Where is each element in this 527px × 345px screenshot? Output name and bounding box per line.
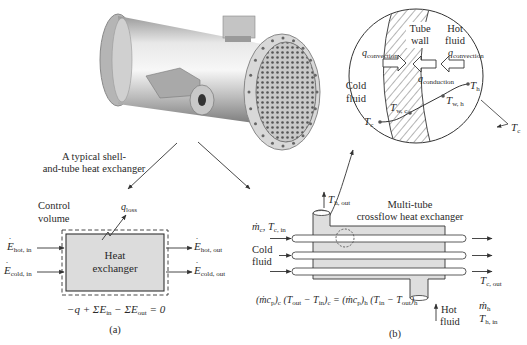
hot-fluid-label-line2: fluid — [445, 35, 466, 46]
cold-fluid-label-line2: fluid — [252, 256, 273, 267]
flange-bolt — [309, 59, 312, 62]
flange-bolt — [249, 74, 252, 77]
flange-bolt — [271, 142, 274, 145]
flange-bolt — [301, 134, 304, 137]
heat-exchanger-figure: A typical shell- and-tube heat exchanger… — [0, 0, 527, 345]
box-label-line1: Heat — [105, 249, 126, 261]
flange-bolt — [262, 134, 265, 137]
svg-text:·: · — [196, 257, 199, 267]
hot-fluid-label-line1: Hot — [441, 304, 457, 315]
Tc-out-label: Tc, out — [480, 274, 502, 288]
mh-label: ṁh — [479, 299, 491, 313]
panel-b-title-line1: Multi-tube — [388, 199, 433, 210]
panel-b-title-line2: crossflow heat exchanger — [357, 211, 464, 222]
flange-bolt — [248, 91, 251, 94]
shell-and-tube-photo — [100, 14, 320, 150]
flange-bolt — [254, 122, 257, 125]
panel-b-label: (b) — [389, 328, 402, 340]
photo-caption-line2: and-tube heat exchanger — [43, 163, 146, 174]
flange-bolt — [262, 47, 265, 50]
flange-bolt — [309, 122, 312, 125]
hot-fluid-label-line1: Hot — [447, 23, 463, 34]
flange-bolt — [282, 37, 285, 40]
flange-bolt — [292, 39, 295, 42]
flange-bolt — [254, 59, 257, 62]
cold-fluid-label-line1: Cold — [252, 244, 273, 255]
tube-3 — [292, 268, 466, 275]
flange-bolt — [301, 47, 304, 50]
panel-b-crossflow: Th, out Multi-tube crossflow heat exchan… — [252, 192, 502, 340]
control-volume-label-line1: Control — [38, 200, 70, 211]
tube-wall-label-line1: Tube — [409, 23, 431, 34]
Tc-outside-label: Tc — [511, 121, 520, 135]
photo-caption-line1: A typical shell- — [62, 151, 127, 162]
arrow-to-panel-b — [198, 142, 250, 189]
flange-bolt — [271, 39, 274, 42]
svg-text:·: · — [6, 257, 9, 267]
svg-text:·: · — [9, 233, 12, 243]
cold-fluid-label-line1: Cold — [346, 80, 367, 91]
heat-rate-equation: (ṁcp)c (Tout − Tin)c = (ṁcp)h (Tin − Tou… — [256, 294, 418, 307]
tube-wall-label-line2: wall — [411, 35, 429, 46]
top-nozzle — [223, 16, 255, 38]
flange-bolt — [314, 74, 317, 77]
cold-fluid-label-line2: fluid — [346, 93, 367, 104]
tube-1 — [292, 235, 466, 242]
flange-bolt — [249, 107, 252, 110]
tube-sheet — [256, 42, 316, 142]
hot-outlet-nozzle — [313, 211, 330, 216]
panel-a-energy-balance: Control volume Heat exchanger qloss Ehot… — [3, 200, 225, 336]
energy-balance-equation: −q + ΣEin − ΣEout = 0 — [67, 303, 166, 317]
box-label-line2: exchanger — [92, 262, 138, 274]
panel-a-label: (a) — [109, 324, 121, 336]
flange-bolt — [316, 91, 319, 94]
control-volume-label-line2: volume — [38, 213, 70, 224]
hot-fluid-label-line2: fluid — [440, 316, 461, 327]
Th-in-label: Th, in — [479, 312, 498, 326]
q-loss-label: qloss — [121, 201, 137, 214]
tube-2 — [292, 252, 466, 259]
flange-bolt — [314, 107, 317, 110]
mc-Tc-in-label: ṁc, Tc, in — [252, 221, 286, 234]
flange-bolt — [282, 145, 285, 148]
svg-text:·: · — [196, 233, 199, 243]
flange-bolt — [292, 142, 295, 145]
